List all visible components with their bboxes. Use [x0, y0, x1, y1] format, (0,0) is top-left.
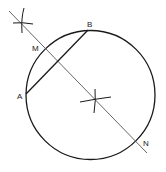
upper-arc-mark [13, 8, 33, 33]
lower-arc-mark [80, 89, 111, 113]
label-b: B [87, 20, 92, 29]
label-a: A [17, 92, 23, 101]
construction-diagram: B M A N [0, 0, 166, 172]
label-n: N [143, 139, 149, 148]
label-m: M [32, 44, 39, 53]
